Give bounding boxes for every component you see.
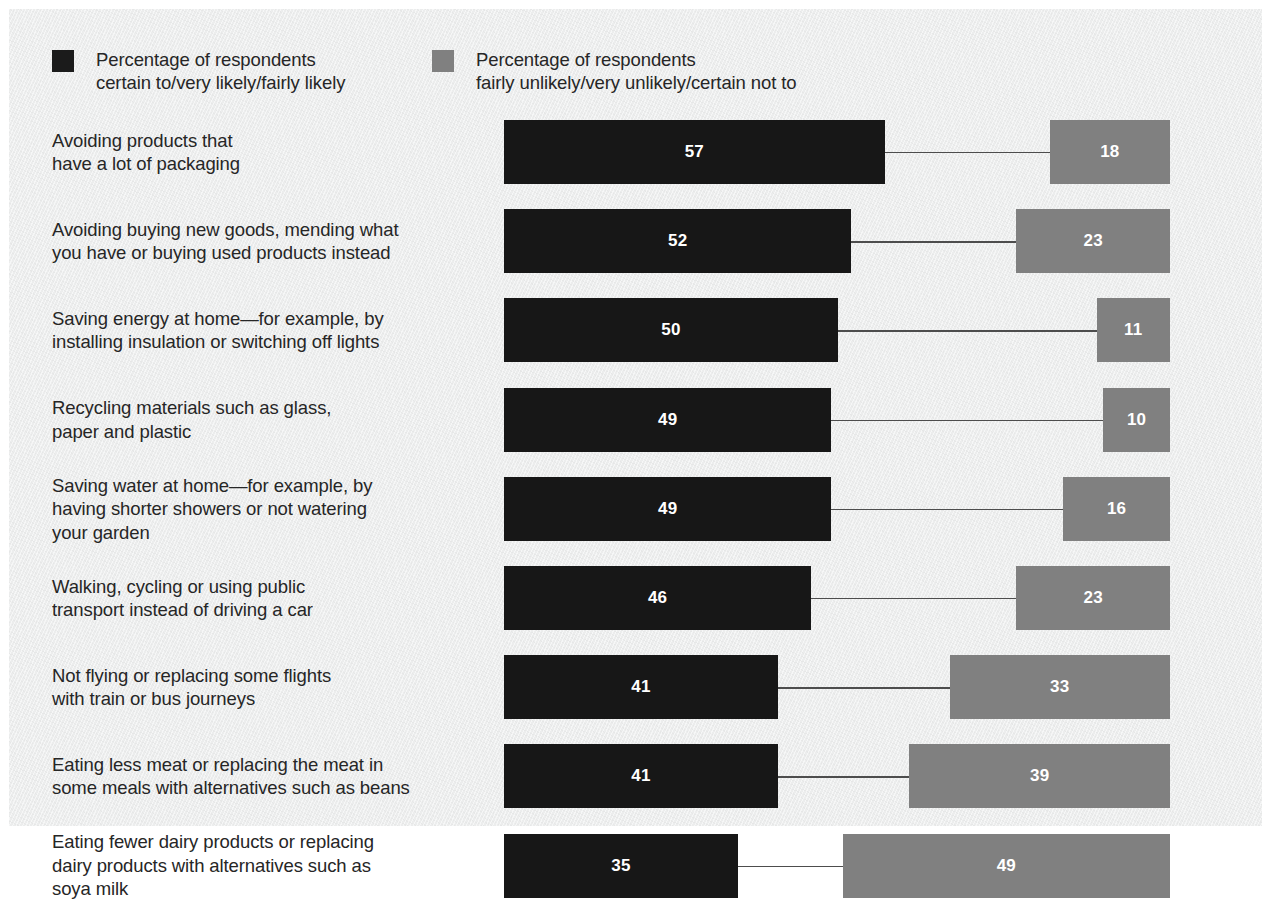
bar-chart-plot: Avoiding products that have a lot of pac… [9, 9, 1262, 826]
category-label: Eating fewer dairy products or replacing… [52, 830, 492, 901]
bar-value-label: 39 [1030, 766, 1049, 786]
bar-value-label: 49 [997, 856, 1016, 876]
chart-panel: Percentage of respondents certain to/ver… [9, 9, 1262, 826]
bar-connector-line [738, 866, 843, 867]
category-label: Avoiding buying new goods, mending what … [52, 218, 492, 265]
bar-value-label: 33 [1050, 677, 1069, 697]
category-label: Recycling materials such as glass, paper… [52, 396, 492, 443]
bar-connector-line [838, 330, 1097, 331]
bar-connector-line [778, 687, 950, 688]
bar-connector-line [831, 509, 1063, 510]
bar-certain-likely: 41 [504, 744, 778, 808]
bar-unlikely: 49 [843, 834, 1170, 898]
bar-value-label: 57 [685, 142, 704, 162]
category-label: Walking, cycling or using public transpo… [52, 575, 492, 622]
bar-connector-line [831, 420, 1103, 421]
bar-value-label: 41 [631, 677, 650, 697]
bar-connector-line [811, 598, 1016, 599]
bar-value-label: 10 [1127, 410, 1146, 430]
bar-value-label: 35 [611, 856, 630, 876]
bar-unlikely: 23 [1016, 566, 1170, 630]
bar-unlikely: 23 [1016, 209, 1170, 273]
category-label: Avoiding products that have a lot of pac… [52, 129, 492, 176]
bar-value-label: 16 [1107, 499, 1126, 519]
bar-certain-likely: 41 [504, 655, 778, 719]
bar-value-label: 49 [658, 410, 677, 430]
bar-value-label: 23 [1084, 231, 1103, 251]
bar-certain-likely: 52 [504, 209, 851, 273]
bar-certain-likely: 57 [504, 120, 885, 184]
bar-value-label: 50 [661, 320, 680, 340]
bar-value-label: 52 [668, 231, 687, 251]
category-label: Eating less meat or replacing the meat i… [52, 753, 492, 800]
bar-certain-likely: 35 [504, 834, 738, 898]
category-label: Saving energy at home—for example, by in… [52, 307, 492, 354]
bar-unlikely: 11 [1097, 298, 1170, 362]
bar-value-label: 23 [1084, 588, 1103, 608]
bar-unlikely: 33 [950, 655, 1170, 719]
bar-value-label: 11 [1124, 320, 1142, 340]
bar-value-label: 41 [631, 766, 650, 786]
bar-unlikely: 10 [1103, 388, 1170, 452]
bar-unlikely: 18 [1050, 120, 1170, 184]
bar-connector-line [851, 241, 1016, 242]
bar-connector-line [885, 152, 1050, 153]
bar-certain-likely: 46 [504, 566, 811, 630]
bar-value-label: 49 [658, 499, 677, 519]
bar-certain-likely: 49 [504, 388, 831, 452]
bar-connector-line [778, 776, 910, 777]
category-label: Saving water at home—for example, by hav… [52, 474, 492, 545]
category-label: Not flying or replacing some flights wit… [52, 664, 492, 711]
bar-certain-likely: 49 [504, 477, 831, 541]
bar-value-label: 18 [1100, 142, 1119, 162]
bar-certain-likely: 50 [504, 298, 838, 362]
bar-unlikely: 16 [1063, 477, 1170, 541]
bar-value-label: 46 [648, 588, 667, 608]
bar-unlikely: 39 [909, 744, 1170, 808]
